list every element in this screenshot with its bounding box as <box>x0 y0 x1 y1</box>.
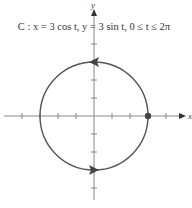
y-axis-arrow-icon <box>91 9 97 16</box>
start-point <box>145 113 151 119</box>
y-axis-label: y <box>90 0 95 10</box>
x-axis-arrow-icon <box>179 113 186 119</box>
parametric-circle-figure: C : x = 3 cos t, y = 3 sin t, 0 ≤ t ≤ 2π… <box>0 0 192 208</box>
x-axis-label: x <box>187 111 192 121</box>
